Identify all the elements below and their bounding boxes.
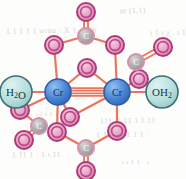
atom-metal-chromium-label: Cr xyxy=(112,87,123,98)
atom-metal-chromium: Cr xyxy=(104,79,130,105)
atom-carbon-label: C xyxy=(133,57,139,67)
atom-carbon: C xyxy=(128,54,144,70)
atom-carbon: C xyxy=(78,28,94,44)
atom-carbon-label: C xyxy=(83,31,89,41)
atom-oxygen xyxy=(130,70,148,88)
atom-carbon-label: C xyxy=(36,121,42,131)
atom-carbon-label: C xyxy=(83,143,89,153)
atom-metal-chromium-label: Cr xyxy=(53,87,64,98)
atom-oxygen xyxy=(78,59,96,77)
atom-oxygen xyxy=(106,36,124,54)
ligand-water: OH2 xyxy=(146,76,178,108)
ligand-water: H2O xyxy=(0,76,32,108)
atom-oxygen xyxy=(48,123,66,141)
atom-oxygen xyxy=(77,3,95,21)
atom-oxygen xyxy=(45,36,63,54)
molecular-diagram-canvas: m (1,1)1 1 1 1 1 wınu · X 1-m Drı 1 ı χ … xyxy=(0,0,186,179)
atom-oxygen xyxy=(77,162,95,179)
atom-metal-chromium: Cr xyxy=(45,79,71,105)
atom-oxygen xyxy=(108,122,126,140)
atom-oxygen xyxy=(61,108,79,126)
molecule-structure: CCCCCrCrH2OOH2 xyxy=(0,0,186,179)
atom-oxygen xyxy=(15,131,33,149)
atom-carbon: C xyxy=(31,118,47,134)
atom-carbon: C xyxy=(78,140,94,156)
atom-oxygen xyxy=(154,38,172,56)
